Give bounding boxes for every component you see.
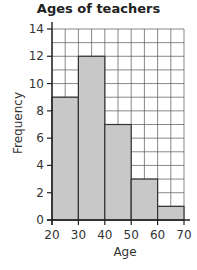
x-tick-label: 20 <box>44 228 59 242</box>
histogram-bar <box>158 206 184 220</box>
histogram-bar <box>52 97 78 220</box>
x-tick-label: 40 <box>97 228 112 242</box>
histogram-plot: 02468101214203040506070 <box>0 0 197 270</box>
x-tick-label: 70 <box>176 228 191 242</box>
y-tick-label: 0 <box>36 213 44 227</box>
y-tick-label: 6 <box>36 131 44 145</box>
x-tick-label: 30 <box>71 228 86 242</box>
y-tick-label: 2 <box>36 186 44 200</box>
histogram-bar <box>131 179 157 220</box>
y-tick-label: 4 <box>36 158 44 172</box>
y-tick-label: 10 <box>29 77 44 91</box>
x-tick-label: 50 <box>124 228 139 242</box>
x-tick-label: 60 <box>150 228 165 242</box>
histogram-bar <box>105 125 131 221</box>
y-tick-label: 12 <box>29 49 44 63</box>
y-tick-label: 8 <box>36 104 44 118</box>
y-tick-label: 14 <box>29 22 44 36</box>
histogram-bar <box>78 56 104 220</box>
